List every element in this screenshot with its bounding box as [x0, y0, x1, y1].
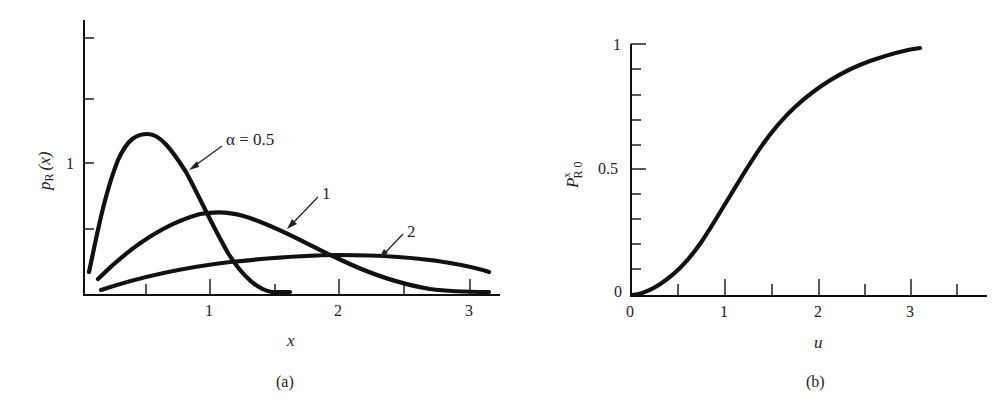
figure-canvas: 1 1 2 3 pR(x) x α = 0.5 1 2 (a) [0, 0, 1008, 412]
chart-b: 1 0.5 0 0 1 2 3 PxR 0 u (b) [561, 36, 987, 391]
chart-a-x-tick-label-1: 1 [205, 302, 213, 319]
chart-a-y-tick-label-1: 1 [66, 155, 74, 172]
annotation-alpha-0.5: α = 0.5 [189, 130, 274, 170]
chart-a-y-axis-label: pR(x) [35, 151, 56, 191]
chart-a-caption: (a) [276, 373, 294, 391]
chart-b-y-tick-label-0.5: 0.5 [598, 160, 618, 177]
annotation-alpha-2: 2 [379, 222, 416, 258]
chart-b-x-ticks [678, 279, 957, 296]
chart-b-x-tick-label-0: 0 [626, 303, 634, 320]
curve-p-r0 [632, 48, 920, 295]
chart-a-x-tick-label-2: 2 [334, 302, 342, 319]
svg-text:pR(x): pR(x) [35, 151, 56, 191]
chart-b-y-tick-label-0: 0 [614, 283, 622, 300]
chart-b-x-tick-label-2: 2 [814, 303, 822, 320]
chart-a-y-ticks [84, 38, 94, 229]
chart-b-y-tick-label-1: 1 [613, 36, 621, 53]
chart-b-y-ticks [631, 44, 646, 269]
chart-b-x-tick-label-1: 1 [720, 303, 728, 320]
svg-text:1: 1 [322, 184, 331, 203]
chart-b-y-axis-label: PxR 0 [561, 162, 585, 189]
svg-text:α = 0.5: α = 0.5 [226, 130, 274, 149]
svg-text:PxR 0: PxR 0 [561, 162, 585, 189]
chart-a-x-tick-label-3: 3 [465, 302, 473, 319]
chart-a: 1 1 2 3 pR(x) x α = 0.5 1 2 (a) [35, 20, 500, 391]
svg-text:2: 2 [407, 222, 416, 241]
chart-b-caption: (b) [806, 373, 825, 391]
chart-b-x-axis-label: u [814, 333, 823, 352]
chart-a-x-axis-label: x [286, 331, 295, 350]
curve-alpha-2 [101, 255, 489, 290]
chart-b-x-tick-label-3: 3 [906, 303, 914, 320]
annotation-alpha-1: 1 [287, 184, 331, 229]
